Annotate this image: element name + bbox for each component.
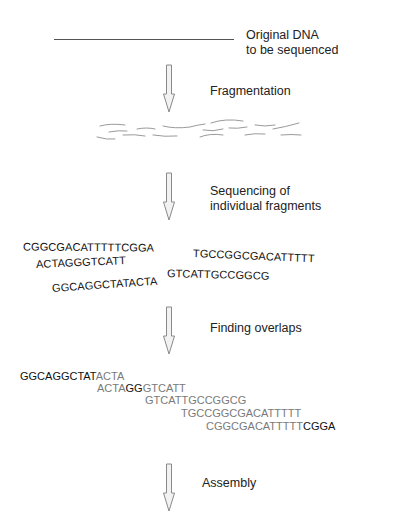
down-arrow-icon [162, 172, 176, 222]
original-dna-line [54, 39, 234, 40]
overlap-part: GTCATTGCCGGCG [145, 394, 246, 406]
overlap-part: GTCATT [143, 382, 186, 394]
read-sequence: GGCAGGCTATACTA [52, 275, 158, 294]
dna-fragments-graphic [95, 115, 315, 155]
read-sequence: ACTAGGGTCATT [36, 254, 126, 270]
overlap-part: TGCCGGCGACATTTTT [181, 407, 301, 419]
original-dna-label-line1: Original DNA [246, 28, 338, 43]
down-arrow-icon [162, 463, 176, 513]
overlap-part: CGGCGACATTTTT [206, 420, 303, 432]
overlap-part: CGGA [303, 420, 335, 432]
step-sequencing-line2: individual fragments [210, 199, 321, 214]
overlap-row: ACTAGGGTCATT [97, 382, 186, 394]
overlap-row: GGCAGGCTATACTA [20, 370, 124, 382]
step-fragmentation-label: Fragmentation [210, 84, 291, 99]
step-assembly-label: Assembly [202, 476, 256, 491]
step-sequencing-line1: Sequencing of [210, 184, 321, 199]
read-sequence: TGCCGGCGACATTTTT [193, 247, 315, 264]
down-arrow-icon [162, 306, 176, 356]
overlap-row: TGCCGGCGACATTTTT [181, 407, 301, 419]
original-dna-label: Original DNA to be sequenced [246, 28, 338, 58]
overlap-part: GGCAGGCTAT [20, 370, 96, 382]
overlap-row: GTCATTGCCGGCG [145, 394, 246, 406]
overlap-row: CGGCGACATTTTTCGGA [206, 420, 335, 432]
read-sequence: CGGCGACATTTTTCGGA [23, 240, 154, 253]
overlap-part: GG [126, 382, 143, 394]
read-sequence: GTCATTGCCGGCG [167, 267, 270, 282]
original-dna-label-line2: to be sequenced [246, 43, 338, 58]
overlap-part: ACTA [97, 382, 126, 394]
step-finding-overlaps-label: Finding overlaps [210, 321, 302, 336]
down-arrow-icon [162, 64, 176, 114]
step-sequencing-label: Sequencing of individual fragments [210, 184, 321, 214]
overlap-part: ACTA [96, 370, 125, 382]
